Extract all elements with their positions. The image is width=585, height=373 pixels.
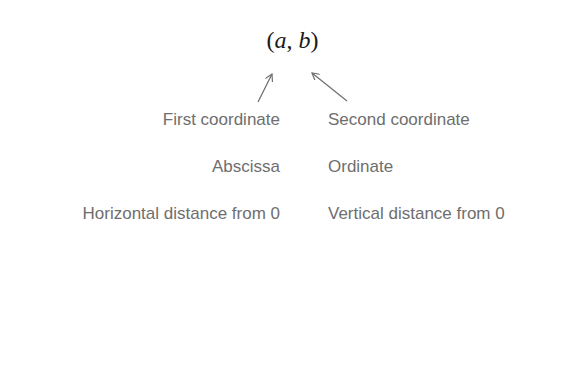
arrow-to-second-coordinate-icon [312, 73, 347, 101]
label-ordinate: Ordinate [328, 157, 393, 177]
arrow-to-first-coordinate-icon [258, 74, 272, 102]
arrows-layer [0, 0, 585, 373]
label-vertical-distance: Vertical distance from 0 [328, 204, 505, 224]
label-horizontal-distance: Horizontal distance from 0 [83, 204, 280, 224]
label-first-coordinate: First coordinate [163, 110, 280, 130]
label-abscissa: Abscissa [212, 157, 280, 177]
label-second-coordinate: Second coordinate [328, 110, 470, 130]
